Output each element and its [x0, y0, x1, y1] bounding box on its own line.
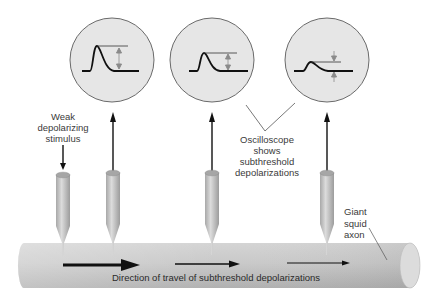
oscilloscope-label-line: shows	[225, 145, 309, 156]
oscilloscope-2	[170, 18, 254, 102]
stimulus-label: Weak depolarizing stimulus	[27, 111, 99, 144]
electrode-recording-2	[205, 170, 219, 255]
oscilloscope-label-line: Oscilloscope	[225, 134, 309, 145]
oscilloscope-1	[70, 18, 154, 102]
oscilloscope-3	[285, 18, 369, 102]
axon-end-cap	[400, 243, 420, 288]
stimulus-arrow	[60, 145, 66, 170]
oscilloscope-label-line: depolarizations	[225, 167, 309, 178]
electrode-recording-3	[320, 170, 334, 255]
diagram-canvas	[0, 0, 430, 300]
stimulus-label-line: Weak	[27, 111, 99, 122]
axon-label: Giant squid axon	[344, 206, 376, 241]
oscilloscope-label-line: subthreshold	[225, 156, 309, 167]
electrode-recording-1	[106, 170, 120, 255]
stimulus-label-line: stimulus	[27, 133, 99, 144]
direction-label: Direction of travel of subthreshold depo…	[112, 272, 320, 283]
axon-label-line: Giant	[344, 206, 376, 218]
oscilloscope-label: Oscilloscope shows subthreshold depolari…	[225, 134, 309, 178]
axon-label-line: squid	[344, 218, 376, 230]
axon-label-line: axon	[344, 229, 376, 241]
stimulus-label-line: depolarizing	[27, 122, 99, 133]
oscilloscope-leader-lines	[246, 103, 295, 131]
